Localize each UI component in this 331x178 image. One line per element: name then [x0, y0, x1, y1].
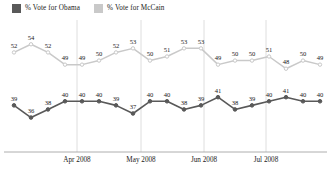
data-label: 53 [181, 38, 188, 45]
data-point[interactable] [318, 63, 321, 66]
legend-item-obama[interactable]: % Vote for Obama [12, 4, 80, 13]
data-label: 40 [164, 91, 171, 98]
data-label: 49 [62, 54, 69, 61]
data-point[interactable] [250, 104, 254, 108]
data-point[interactable] [12, 104, 16, 108]
square-swatch-icon [94, 4, 103, 13]
data-label: 39 [198, 95, 205, 102]
data-point[interactable] [182, 108, 186, 112]
data-label: 50 [232, 50, 239, 57]
data-point[interactable] [267, 55, 270, 58]
data-point[interactable] [46, 108, 50, 112]
data-point[interactable] [233, 59, 236, 62]
data-point[interactable] [63, 99, 67, 103]
data-label: 39 [11, 95, 18, 102]
data-label: 52 [113, 42, 120, 49]
series-obama: 39363840404039374040383941383940414040 [11, 87, 324, 120]
legend-label-mccain: % Vote for McCain [107, 4, 165, 12]
data-point[interactable] [63, 63, 66, 66]
data-point[interactable] [199, 104, 203, 108]
data-label: 40 [266, 91, 273, 98]
data-point[interactable] [165, 99, 169, 103]
data-label: 37 [130, 103, 137, 110]
data-label: 40 [317, 91, 324, 98]
data-point[interactable] [301, 59, 304, 62]
data-label: 53 [130, 38, 137, 45]
data-point[interactable] [284, 67, 287, 70]
data-label: 40 [62, 91, 69, 98]
data-label: 50 [300, 50, 307, 57]
data-label: 50 [147, 50, 154, 57]
data-label: 40 [300, 91, 307, 98]
data-point[interactable] [131, 112, 135, 116]
data-label: 49 [215, 54, 222, 61]
data-label: 39 [249, 95, 256, 102]
data-label: 38 [181, 99, 188, 106]
data-label: 51 [266, 46, 273, 53]
x-tick-label: Apr 2008 [63, 156, 90, 164]
data-point[interactable] [318, 99, 322, 103]
data-point[interactable] [284, 95, 288, 99]
data-label: 49 [79, 54, 86, 61]
data-point[interactable] [29, 43, 32, 46]
data-point[interactable] [114, 104, 118, 108]
data-label: 39 [113, 95, 120, 102]
x-axis-labels: Apr 2008May 2008Jun 2008Jul 2008 [0, 156, 331, 176]
data-label: 50 [96, 50, 103, 57]
legend-item-mccain[interactable]: % Vote for McCain [94, 4, 165, 13]
data-label: 40 [79, 91, 86, 98]
data-label: 40 [147, 91, 154, 98]
poll-line-chart: % Vote for Obama % Vote for McCain 52545… [0, 0, 331, 178]
data-label: 38 [45, 99, 52, 106]
data-label: 38 [232, 99, 239, 106]
data-label: 36 [28, 107, 35, 114]
data-point[interactable] [114, 51, 117, 54]
data-label: 41 [283, 87, 290, 94]
data-label: 50 [249, 50, 256, 57]
data-point[interactable] [80, 63, 83, 66]
data-point[interactable] [216, 95, 220, 99]
data-point[interactable] [12, 51, 15, 54]
x-tick-label: Jun 2008 [191, 156, 217, 164]
plot-area: 5254524949505253505153534950505148504939… [0, 16, 331, 156]
square-swatch-icon [12, 4, 21, 13]
data-point[interactable] [131, 47, 134, 50]
data-label: 52 [45, 42, 52, 49]
data-label: 41 [215, 87, 222, 94]
series-mccain: 52545249495052535051535349505051485049 [11, 34, 324, 71]
data-point[interactable] [148, 99, 152, 103]
data-point[interactable] [97, 99, 101, 103]
data-point[interactable] [165, 55, 168, 58]
plot-svg: 5254524949505253505153534950505148504939… [0, 16, 331, 156]
data-point[interactable] [250, 59, 253, 62]
data-point[interactable] [199, 47, 202, 50]
data-label: 49 [317, 54, 324, 61]
data-point[interactable] [97, 59, 100, 62]
data-label: 53 [198, 38, 205, 45]
data-point[interactable] [216, 63, 219, 66]
data-point[interactable] [29, 116, 33, 120]
data-label: 40 [96, 91, 103, 98]
data-point[interactable] [80, 99, 84, 103]
data-label: 48 [283, 58, 290, 65]
x-tick-label: Jul 2008 [254, 156, 279, 164]
data-point[interactable] [267, 99, 271, 103]
data-label: 52 [11, 42, 18, 49]
data-label: 51 [164, 46, 171, 53]
data-point[interactable] [182, 47, 185, 50]
legend-label-obama: % Vote for Obama [25, 4, 80, 12]
data-point[interactable] [148, 59, 151, 62]
data-point[interactable] [46, 51, 49, 54]
data-point[interactable] [233, 108, 237, 112]
x-tick-label: May 2008 [126, 156, 155, 164]
data-label: 54 [28, 34, 35, 41]
data-point[interactable] [301, 99, 305, 103]
chart-legend: % Vote for Obama % Vote for McCain [12, 2, 165, 14]
